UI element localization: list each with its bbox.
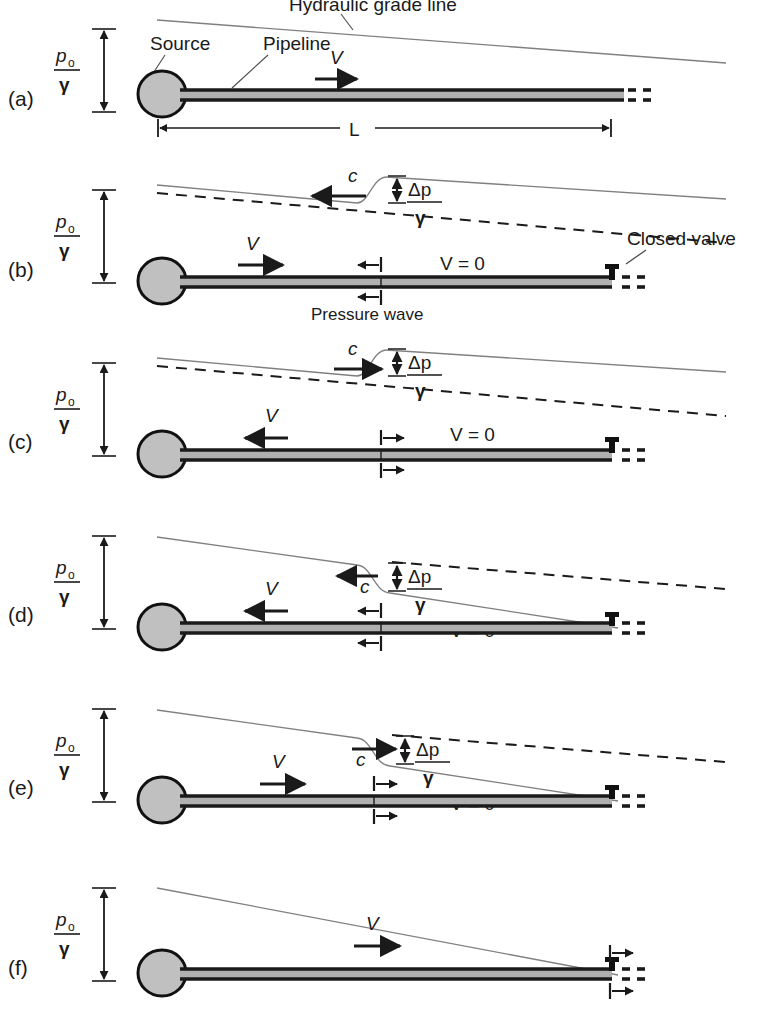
head-numerator: p: [55, 211, 67, 232]
source-reservoir-d: [138, 604, 186, 650]
velocity-zero-label-b: V = 0: [440, 253, 485, 274]
head-numerator: p: [55, 45, 67, 66]
length-label: L: [349, 119, 360, 140]
wave-speed-label: c: [348, 165, 358, 186]
panel-e-tag: (e): [8, 776, 34, 799]
wave-speed-label: c: [356, 749, 366, 770]
delta-numerator: Δp: [408, 352, 431, 373]
panel-b-tag: (b): [8, 258, 34, 281]
head-denominator: γ: [59, 586, 70, 607]
delta-numerator: Δp: [416, 739, 439, 760]
source-reservoir-a: [138, 71, 186, 117]
head-denominator: γ: [59, 413, 70, 434]
head-numerator: p: [55, 384, 67, 405]
panel-f-tag: (f): [8, 956, 28, 979]
delta-denominator: γ: [415, 594, 426, 615]
head-numerator: p: [55, 730, 67, 751]
panel-a-tag: (a): [8, 87, 34, 110]
panel-c-tag: (c): [8, 430, 33, 453]
delta-denominator: γ: [423, 767, 434, 788]
head-subscript: o: [68, 222, 75, 236]
source-reservoir-e: [138, 777, 186, 823]
source-reservoir-c: [138, 431, 186, 477]
head-numerator: p: [55, 557, 67, 578]
wave-speed-label: c: [360, 576, 370, 597]
delta-numerator: Δp: [408, 179, 431, 200]
figure-background: [0, 0, 769, 1026]
source-reservoir-b: [138, 258, 186, 304]
head-denominator: γ: [59, 240, 70, 261]
head-subscript: o: [68, 568, 75, 582]
head-subscript: o: [68, 741, 75, 755]
water-hammer-figure: (a) p o γ Hydraulic grade line Source Pi…: [0, 0, 769, 1026]
delta-numerator: Δp: [408, 566, 431, 587]
velocity-zero-label-c: V = 0: [450, 424, 495, 445]
head-subscript: o: [68, 56, 75, 70]
head-numerator: p: [55, 909, 67, 930]
closed-valve-label: Closed valve: [627, 228, 736, 249]
panel-d-tag: (d): [8, 603, 34, 626]
head-denominator: γ: [59, 759, 70, 780]
pipeline-label: Pipeline: [263, 33, 331, 54]
pressure-wave-label: Pressure wave: [311, 305, 423, 324]
head-subscript: o: [68, 920, 75, 934]
head-subscript: o: [68, 395, 75, 409]
wave-speed-label: c: [348, 338, 358, 359]
head-denominator: γ: [59, 74, 70, 95]
head-denominator: γ: [59, 938, 70, 959]
source-reservoir-f: [138, 950, 186, 996]
hgl-label: Hydraulic grade line: [289, 0, 457, 15]
delta-denominator: γ: [415, 207, 426, 228]
delta-denominator: γ: [415, 380, 426, 401]
source-label: Source: [150, 33, 210, 54]
